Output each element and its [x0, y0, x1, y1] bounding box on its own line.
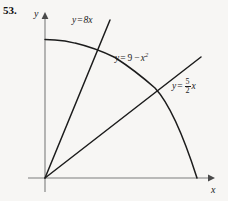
y-axis-label: y: [33, 8, 39, 19]
figure-container: 53. y x y=8x y=9−x2 y=52x: [0, 0, 228, 201]
eqn-equals: =: [119, 53, 126, 63]
x-axis-label: x: [210, 184, 216, 195]
eqn-minus: −: [133, 53, 140, 63]
equation-label-line-5over2x: y=52x: [172, 78, 196, 96]
eqn-equals: =: [76, 15, 83, 25]
eqn-var-x: x: [88, 15, 92, 25]
eqn-exponent-2: 2: [145, 51, 148, 58]
line-5over2x-curve: [45, 57, 201, 178]
equation-label-parabola: y=9−x2: [115, 52, 148, 64]
coordinate-plot: y x: [0, 0, 228, 201]
fraction-denominator: 2: [185, 86, 191, 95]
equation-label-line-8x: y=8x: [72, 16, 93, 26]
x-axis-arrowhead: [208, 174, 215, 181]
eqn-equals: =: [176, 81, 183, 91]
eqn-var-x: x: [192, 81, 196, 91]
eqn-fraction-5-over-2: 52: [185, 78, 191, 96]
y-axis-arrowhead: [42, 12, 49, 19]
fraction-numerator: 5: [185, 78, 191, 86]
